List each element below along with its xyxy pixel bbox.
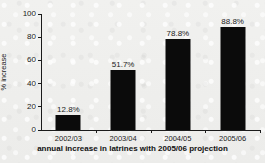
y-axis-tick-mark: [38, 37, 41, 38]
x-axis-tick-label: 2004/05: [164, 135, 191, 143]
x-axis-title: annual increase in latrines with 2005/06…: [0, 145, 265, 153]
bar-chart: % increase 0 20 40 60 80 100: [0, 0, 265, 163]
y-axis-tick-label: 60: [27, 56, 38, 64]
bar: [165, 39, 190, 130]
y-axis-tick: 40: [27, 80, 41, 88]
bar-value-label: 78.8%: [167, 30, 190, 39]
y-axis-tick-mark: [38, 60, 41, 61]
y-axis-tick-label: 40: [27, 80, 38, 88]
x-axis-tick-mark: [205, 130, 206, 133]
y-axis-tick-label: 20: [27, 103, 38, 111]
y-axis-tick: 80: [27, 33, 41, 41]
x-axis-tick-label: 2003/04: [110, 135, 137, 143]
bar: [220, 27, 245, 130]
y-axis-tick-mark: [38, 83, 41, 84]
y-axis-tick: 100: [23, 10, 41, 18]
y-axis-tick-mark: [38, 14, 41, 15]
bar: [111, 70, 136, 130]
y-axis-tick-mark: [38, 130, 41, 131]
bar-value-label: 51.7%: [112, 61, 135, 70]
bar-value-label: 88.8%: [221, 18, 244, 27]
y-axis-tick: 20: [27, 103, 41, 111]
x-axis-tick-label: 2005/06: [219, 135, 246, 143]
plot-area: 0 20 40 60 80 100 12.8% 51.7%: [41, 14, 260, 130]
x-axis-tick-label: 2002/03: [55, 135, 82, 143]
y-axis-tick-label: 80: [27, 33, 38, 41]
y-axis-title: % increase: [0, 53, 8, 90]
x-axis-tick-mark: [260, 130, 261, 133]
bar-value-label: 12.8%: [57, 106, 80, 115]
y-axis-tick-label: 100: [23, 10, 38, 18]
x-axis-tick-mark: [151, 130, 152, 133]
y-axis-tick-mark: [38, 106, 41, 107]
y-axis-tick: 60: [27, 56, 41, 64]
x-axis-tick-mark: [96, 130, 97, 133]
bar: [56, 115, 81, 130]
y-axis-tick: 0: [32, 126, 41, 134]
